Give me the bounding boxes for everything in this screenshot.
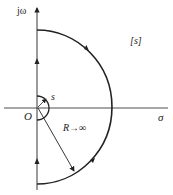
origin-label: O xyxy=(24,110,32,122)
real-axis-label: σ xyxy=(158,111,164,123)
small-radius-arrow xyxy=(38,99,46,107)
direction-arrow-upper-axis xyxy=(35,58,40,64)
radius-label: R→∞ xyxy=(62,122,86,133)
radius-arrow xyxy=(38,108,74,171)
large-semicircle-contour xyxy=(37,30,112,184)
nyquist-contour-diagram: jω σ O [s] s R→∞ xyxy=(0,0,173,195)
imaginary-axis-label: jω xyxy=(16,5,27,16)
plane-label: [s] xyxy=(130,35,142,46)
direction-arrow-lower-axis xyxy=(35,158,40,164)
small-radius-label: s xyxy=(51,91,55,102)
